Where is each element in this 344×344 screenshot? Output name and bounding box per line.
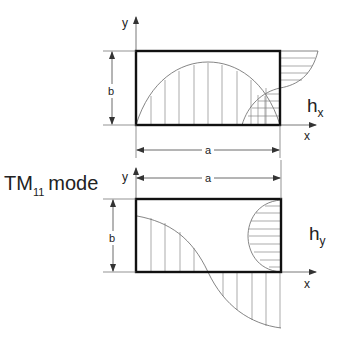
- waveguide-cross-section-bottom: [136, 199, 281, 272]
- y-axis-label: y: [122, 170, 128, 184]
- a-dimension-label: a: [205, 144, 212, 156]
- field-label-hy: hy: [309, 223, 326, 248]
- x-axis-label: x: [304, 277, 310, 291]
- b-dimension-label: b: [108, 85, 114, 97]
- mode-title: TM11mode: [4, 172, 98, 198]
- field-label-hx: hx: [307, 95, 324, 120]
- a-dimension-label: a: [205, 172, 212, 184]
- top-panel-hx: y x: [103, 16, 324, 158]
- b-dimension-label: b: [109, 232, 115, 244]
- y-axis-label: y: [122, 16, 128, 30]
- x-axis-label: x: [304, 129, 310, 143]
- bottom-panel-hy: y x: [103, 160, 326, 328]
- tm11-mode-diagram: y x: [0, 0, 344, 344]
- hx-vertical-hatch: [151, 63, 265, 125]
